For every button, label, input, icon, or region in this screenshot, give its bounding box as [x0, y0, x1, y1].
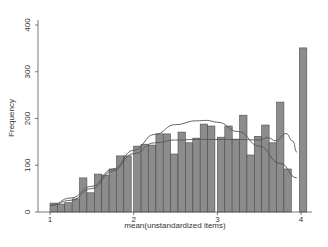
x-axis-title: mean(unstandardized items)	[124, 221, 226, 230]
x-tick-label: 4	[299, 215, 304, 224]
histogram-chart: 0100200300400 1234 mean(unstandardized i…	[0, 0, 328, 247]
histogram-bar	[240, 115, 247, 212]
histogram-bars	[50, 48, 307, 212]
y-tick-label: 300	[23, 65, 32, 79]
histogram-bar	[277, 102, 284, 212]
histogram-bar	[254, 136, 261, 212]
histogram-bar	[193, 138, 200, 212]
histogram-bar	[124, 156, 131, 212]
histogram-bar	[156, 134, 163, 212]
histogram-bar	[171, 154, 178, 212]
y-tick-label: 200	[23, 111, 32, 125]
histogram-bar	[102, 175, 109, 212]
y-tick-label: 100	[23, 158, 32, 172]
histogram-bar	[148, 145, 155, 212]
histogram-bar	[185, 143, 192, 212]
histogram-bar	[163, 134, 170, 212]
histogram-bar	[225, 126, 232, 212]
histogram-bar	[247, 155, 254, 212]
histogram-bar	[200, 124, 207, 212]
histogram-bar	[57, 204, 64, 212]
histogram-bar	[72, 199, 79, 212]
histogram-bar	[87, 193, 94, 212]
histogram-bar	[269, 143, 276, 212]
histogram-bar	[134, 146, 141, 212]
y-tick-label: 0	[23, 209, 32, 214]
y-axis-title: Frequency	[7, 99, 16, 137]
histogram-bar	[299, 48, 306, 212]
x-tick-label: 1	[48, 215, 53, 224]
histogram-bar	[208, 126, 215, 212]
histogram-bar	[65, 203, 72, 212]
y-tick-label: 400	[23, 18, 32, 32]
histogram-bar	[109, 169, 116, 212]
y-axis-ticks: 0100200300400	[23, 18, 38, 214]
histogram-bar	[284, 169, 291, 212]
histogram-bar	[232, 139, 239, 212]
histogram-bar	[178, 132, 185, 212]
histogram-bar	[141, 144, 148, 212]
histogram-bar	[217, 137, 224, 212]
